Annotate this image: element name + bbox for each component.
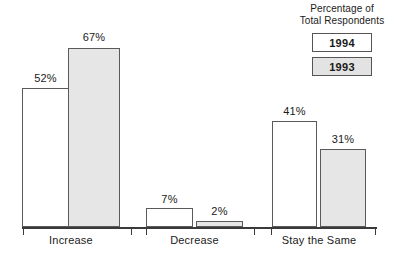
bar-value-decrease-1994: 7% [145,193,194,205]
axis-tick [375,229,376,235]
bar-value-stay-the-same-1994: 41% [271,105,318,117]
bar-value-decrease-1993: 2% [195,205,244,217]
bar-chart: Percentage of Total Respondents 1994 199… [0,0,399,256]
axis-tick [131,229,132,235]
category-label-stay-the-same: Stay the Same [272,234,366,246]
bar-stay-the-same-1993[interactable] [320,149,366,227]
bar-value-increase-1994: 52% [21,72,70,84]
category-label-increase: Increase [22,234,120,246]
plot-area: 52% 67% 7% 2% 41% 31% Increase Decrease … [0,0,399,256]
axis-tick [254,229,255,235]
category-label-decrease: Decrease [146,234,243,246]
bar-value-stay-the-same-1993: 31% [319,133,367,145]
bar-increase-1994[interactable] [22,88,69,227]
x-axis-line [22,227,377,229]
bar-increase-1993[interactable] [68,48,120,227]
bar-decrease-1994[interactable] [146,208,193,227]
bar-stay-the-same-1994[interactable] [272,121,317,227]
bar-decrease-1993[interactable] [196,221,243,227]
bar-value-increase-1993: 67% [69,31,119,43]
